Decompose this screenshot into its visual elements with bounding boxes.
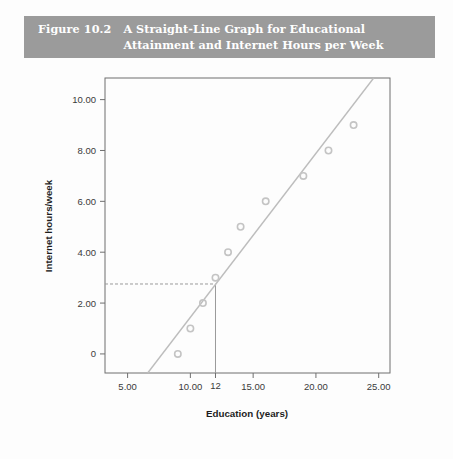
data-point-marker — [175, 351, 181, 357]
data-point-marker — [350, 122, 356, 128]
chart-container: 5.0010.0015.0020.0025.0012 02.004.006.00… — [0, 62, 453, 432]
data-point-marker — [212, 274, 218, 280]
x-tick-label: 15.00 — [241, 381, 265, 392]
data-point-marker — [300, 173, 306, 179]
fit-line-segment — [148, 78, 374, 373]
regression-line — [148, 78, 374, 373]
x-tick-label: 20.00 — [304, 381, 328, 392]
y-tick-label: 10.00 — [72, 94, 96, 105]
x-axis: 5.0010.0015.0020.0025.0012 — [118, 373, 390, 392]
x-tick-label: 25.00 — [367, 381, 391, 392]
scatter-plot: 5.0010.0015.0020.0025.0012 02.004.006.00… — [0, 62, 453, 432]
x-tick-label-annotation: 12 — [210, 380, 221, 391]
figure-page: Figure 10.2 A Straight-Line Graph for Ed… — [0, 0, 453, 459]
data-point-marker — [237, 224, 243, 230]
y-axis: 02.004.006.008.0010.00 — [72, 94, 105, 359]
y-tick-label: 4.00 — [78, 247, 97, 258]
figure-title-text: A Straight-Line Graph for Educational At… — [123, 21, 425, 53]
data-point-marker — [187, 325, 193, 331]
figure-caption-bar: Figure 10.2 A Straight-Line Graph for Ed… — [24, 16, 435, 58]
data-point-marker — [225, 249, 231, 255]
x-axis-title: Education (years) — [206, 408, 288, 419]
y-axis-title: Internet hours/week — [43, 179, 54, 272]
x-tick-label: 5.00 — [118, 381, 137, 392]
figure-number-label: Figure 10.2 — [38, 21, 111, 37]
y-tick-label: 6.00 — [78, 196, 97, 207]
guide-lines — [105, 284, 215, 373]
data-point-marker — [325, 147, 331, 153]
y-tick-label: 8.00 — [78, 145, 97, 156]
y-tick-label: 0 — [91, 348, 96, 359]
data-points — [175, 122, 357, 357]
data-point-marker — [263, 198, 269, 204]
y-tick-label: 2.00 — [78, 298, 97, 309]
plot-frame — [105, 78, 390, 373]
x-tick-label: 10.00 — [178, 381, 202, 392]
